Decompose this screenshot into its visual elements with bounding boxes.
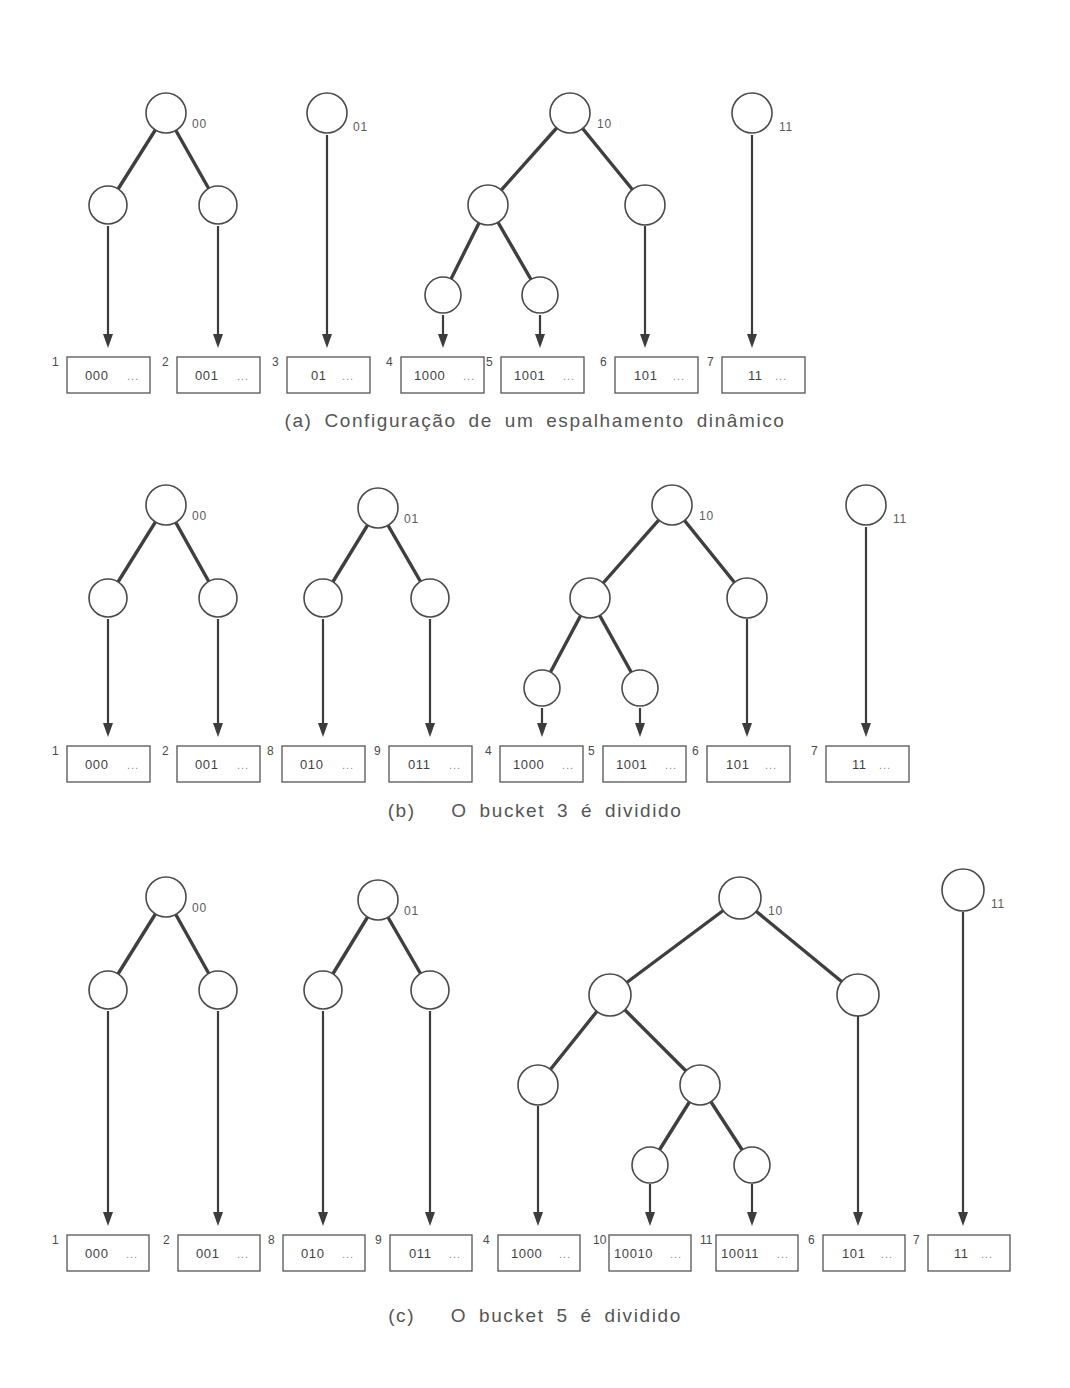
- bucket[interactable]: 1 000 ...: [52, 744, 150, 782]
- bucket[interactable]: 9 011 ...: [374, 744, 472, 782]
- pointer-arrow-head: [535, 334, 545, 348]
- bucket[interactable]: 4 1000 ...: [485, 744, 583, 782]
- trie-node-leaf[interactable]: [304, 579, 342, 617]
- trie-node-leaf[interactable]: [425, 277, 461, 313]
- bucket-index: 2: [162, 744, 169, 758]
- trie-node-leaf[interactable]: [632, 1147, 668, 1183]
- trie-node-internal[interactable]: [589, 974, 631, 1016]
- bucket-ellipsis: ...: [981, 1248, 993, 1260]
- bucket[interactable]: 10 10010 ...: [593, 1233, 691, 1271]
- bucket-index: 7: [913, 1233, 920, 1247]
- pointer-arrow-head: [213, 334, 223, 348]
- bucket[interactable]: 7 11 ...: [707, 355, 805, 393]
- trie-root-label: 00: [192, 509, 207, 523]
- trie-node-leaf[interactable]: [734, 1147, 770, 1183]
- panel-c-buckets: 1 000 ... 2 001 ... 8 010 ...: [52, 1233, 1010, 1271]
- panel-c-tree-10: 10: [518, 877, 879, 1226]
- bucket-index: 5: [486, 355, 493, 369]
- bucket-index: 5: [588, 744, 595, 758]
- trie-node-leaf[interactable]: [304, 971, 342, 1009]
- bucket-box[interactable]: [928, 1235, 1010, 1271]
- bucket-ellipsis: ...: [237, 1248, 249, 1260]
- trie-node-leaf[interactable]: [89, 971, 127, 1009]
- bucket-ellipsis: ...: [449, 759, 461, 771]
- trie-node-leaf[interactable]: [199, 579, 237, 617]
- trie-node-leaf[interactable]: [199, 186, 237, 224]
- bucket-ellipsis: ...: [127, 370, 139, 382]
- pointer-arrow-head: [318, 1212, 328, 1226]
- bucket[interactable]: 2 001 ...: [162, 744, 260, 782]
- pointer-arrow-head: [322, 334, 332, 348]
- trie-node-root[interactable]: [307, 93, 347, 133]
- bucket[interactable]: 5 1001 ...: [486, 355, 584, 393]
- trie-node-leaf[interactable]: [837, 974, 879, 1016]
- bucket[interactable]: 1 000 ...: [52, 1233, 149, 1271]
- trie-node-root[interactable]: [719, 877, 761, 919]
- bucket-index: 2: [163, 1233, 170, 1247]
- trie-node-root[interactable]: [652, 485, 692, 525]
- trie-node-leaf[interactable]: [625, 185, 665, 225]
- bucket-key: 001: [195, 757, 219, 772]
- bucket[interactable]: 7 11 ...: [811, 744, 909, 782]
- trie-node-root[interactable]: [550, 93, 590, 133]
- trie-node-leaf[interactable]: [199, 971, 237, 1009]
- trie-node-internal[interactable]: [680, 1065, 720, 1105]
- bucket-ellipsis: ...: [342, 1248, 354, 1260]
- bucket[interactable]: 4 1000 ...: [483, 1233, 580, 1271]
- trie-node-root[interactable]: [358, 488, 398, 528]
- bucket[interactable]: 6 101 ...: [808, 1233, 905, 1271]
- pointer-arrow-head: [958, 1212, 968, 1226]
- bucket[interactable]: 9 011 ...: [375, 1233, 472, 1271]
- trie-node-internal[interactable]: [468, 185, 508, 225]
- trie-node-leaf[interactable]: [522, 277, 558, 313]
- trie-node-internal[interactable]: [570, 578, 610, 618]
- trie-node-leaf[interactable]: [622, 670, 658, 706]
- pointer-arrow-head: [213, 723, 223, 737]
- bucket[interactable]: 3 01 ...: [272, 355, 370, 393]
- bucket-key: 1001: [616, 757, 647, 772]
- bucket-ellipsis: ...: [777, 1248, 789, 1260]
- bucket[interactable]: 2 001 ...: [162, 355, 260, 393]
- trie-node-leaf[interactable]: [89, 186, 127, 224]
- bucket[interactable]: 5 1001 ...: [588, 744, 686, 782]
- pointer-arrow-head: [747, 1212, 757, 1226]
- bucket-box[interactable]: [826, 746, 909, 782]
- trie-node-root[interactable]: [846, 485, 886, 525]
- trie-node-root[interactable]: [358, 880, 398, 920]
- bucket-index: 7: [811, 744, 818, 758]
- bucket-ellipsis: ...: [775, 370, 787, 382]
- trie-root-label: 11: [991, 897, 1005, 911]
- trie-node-leaf[interactable]: [727, 578, 767, 618]
- trie-node-leaf[interactable]: [518, 1065, 558, 1105]
- bucket[interactable]: 1 000 ...: [52, 355, 150, 393]
- bucket-box[interactable]: [722, 357, 805, 393]
- bucket-box[interactable]: [287, 357, 370, 393]
- trie-node-leaf[interactable]: [524, 670, 560, 706]
- trie-node-root[interactable]: [942, 869, 984, 911]
- bucket[interactable]: 7 11 ...: [913, 1233, 1010, 1271]
- tree-edge: [610, 898, 740, 995]
- figure-canvas: 00 01: [0, 0, 1070, 1388]
- trie-node-root[interactable]: [146, 877, 186, 917]
- trie-node-leaf[interactable]: [411, 579, 449, 617]
- trie-node-leaf[interactable]: [411, 971, 449, 1009]
- trie-root-label: 11: [779, 120, 793, 134]
- bucket-ellipsis: ...: [237, 759, 249, 771]
- trie-node-leaf[interactable]: [89, 579, 127, 617]
- bucket[interactable]: 4 1000 ...: [386, 355, 484, 393]
- bucket-ellipsis: ...: [463, 370, 475, 382]
- tree-edge: [740, 898, 858, 995]
- bucket[interactable]: 8 010 ...: [267, 744, 365, 782]
- bucket[interactable]: 2 001 ...: [163, 1233, 260, 1271]
- panel-a: 00 01: [52, 93, 805, 393]
- bucket-ellipsis: ...: [127, 759, 139, 771]
- bucket[interactable]: 6 101 ...: [692, 744, 790, 782]
- trie-node-root[interactable]: [146, 93, 186, 133]
- bucket-key: 011: [408, 757, 431, 772]
- bucket[interactable]: 6 101 ...: [600, 355, 698, 393]
- bucket-ellipsis: ...: [879, 759, 891, 771]
- bucket[interactable]: 11 10011 ...: [700, 1233, 798, 1271]
- bucket[interactable]: 8 010 ...: [268, 1233, 365, 1271]
- trie-node-root[interactable]: [732, 93, 772, 133]
- trie-node-root[interactable]: [146, 485, 186, 525]
